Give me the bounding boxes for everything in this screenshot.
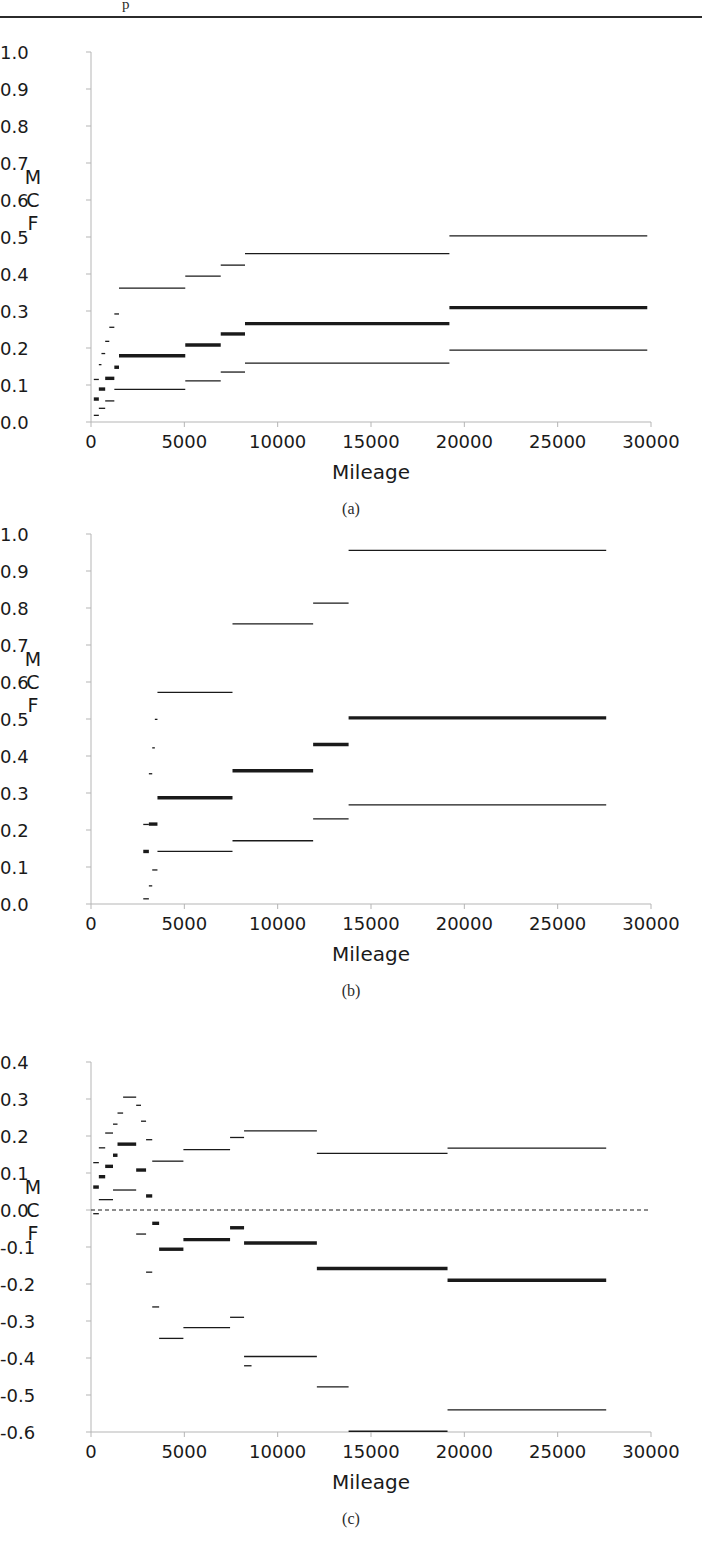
x-tick-label: 10000: [249, 431, 306, 452]
x-axis-title: Mileage: [91, 1470, 651, 1494]
x-tick-label: 15000: [342, 431, 399, 452]
series-mcf-estimate: [143, 718, 606, 852]
y-tick-label: -0.5: [0, 1385, 82, 1406]
y-tick-label: 0.4: [0, 1052, 82, 1073]
figure-panel-a: 0.00.10.20.30.40.50.60.70.80.91.00500010…: [0, 30, 702, 510]
y-tick-label: 0.8: [0, 598, 82, 619]
y-tick-label: 0.3: [0, 301, 82, 322]
y-axis-title-mcf: MCF: [22, 166, 44, 235]
y-tick-label: 0.1: [0, 375, 82, 396]
y-axis-title-letter-2: F: [22, 212, 44, 235]
x-axis-title: Mileage: [91, 460, 651, 484]
x-tick-label: 30000: [622, 431, 679, 452]
x-tick-label: 0: [85, 913, 96, 934]
y-axis-title-letter-0: M: [22, 166, 44, 189]
y-tick-label: 0.3: [0, 783, 82, 804]
x-tick-label: 0: [85, 1441, 96, 1462]
y-axis-title-letter-2: F: [22, 1222, 44, 1245]
y-tick-label: 0.1: [0, 857, 82, 878]
y-tick-label: -0.6: [0, 1422, 82, 1443]
series-mcf-difference-estimate: [93, 1144, 606, 1280]
y-tick-label: 0.4: [0, 264, 82, 285]
y-tick-label: -0.3: [0, 1311, 82, 1332]
y-tick-label: 0.2: [0, 1126, 82, 1147]
x-tick-label: 20000: [436, 431, 493, 452]
x-tick-label: 0: [85, 431, 96, 452]
x-tick-label: 20000: [436, 913, 493, 934]
x-tick-label: 10000: [249, 913, 306, 934]
y-axis-title-letter-0: M: [22, 648, 44, 671]
y-axis-title-letter-0: M: [22, 1176, 44, 1199]
x-tick-label: 30000: [622, 1441, 679, 1462]
y-tick-label: 0.2: [0, 338, 82, 359]
y-axis-title-letter-1: C: [22, 671, 44, 694]
x-tick-label: 25000: [529, 913, 586, 934]
x-axis-title: Mileage: [91, 942, 651, 966]
top-text-fragment: p: [122, 0, 130, 14]
y-tick-label: 0.2: [0, 820, 82, 841]
series-upper-confidence-limit: [143, 550, 606, 824]
y-axis-title-letter-2: F: [22, 694, 44, 717]
series-lower-confidence-limit: [93, 1190, 606, 1431]
y-axis-title-mcf: MCF: [22, 1176, 44, 1245]
x-tick-label: 15000: [342, 913, 399, 934]
y-tick-label: 1.0: [0, 524, 82, 545]
y-axis-title-letter-1: C: [22, 189, 44, 212]
y-tick-label: 0.8: [0, 116, 82, 137]
y-tick-label: 0.3: [0, 1089, 82, 1110]
y-axis-title-letter-1: C: [22, 1199, 44, 1222]
x-tick-label: 5000: [161, 431, 207, 452]
figure-panel-c: -0.6-0.5-0.4-0.3-0.2-0.10.00.10.20.30.40…: [0, 1020, 702, 1546]
figure-panel-b: 0.00.10.20.30.40.50.60.70.80.91.00500010…: [0, 512, 702, 1017]
y-tick-label: 0.9: [0, 561, 82, 582]
y-tick-label: 0.4: [0, 746, 82, 767]
y-tick-label: -0.4: [0, 1348, 82, 1369]
y-axis-title-mcf: MCF: [22, 648, 44, 717]
x-tick-label: 15000: [342, 1441, 399, 1462]
series-upper-confidence-limit: [93, 1097, 606, 1162]
series-lower-confidence-limit: [94, 350, 647, 415]
series-lower-confidence-limit: [143, 805, 606, 899]
y-tick-label: 1.0: [0, 42, 82, 63]
x-tick-label: 25000: [529, 431, 586, 452]
x-tick-label: 30000: [622, 913, 679, 934]
chart-canvas-c: [0, 1020, 702, 1546]
x-tick-label: 10000: [249, 1441, 306, 1462]
x-tick-label: 25000: [529, 1441, 586, 1462]
panel-letter-c: (c): [0, 1510, 702, 1528]
series-mcf-estimate: [94, 308, 647, 399]
x-tick-label: 5000: [161, 1441, 207, 1462]
x-tick-label: 5000: [161, 913, 207, 934]
panel-letter-b: (b): [0, 982, 702, 1000]
y-tick-label: 0.0: [0, 412, 82, 433]
x-tick-label: 20000: [436, 1441, 493, 1462]
y-tick-label: 0.9: [0, 79, 82, 100]
y-tick-label: -0.2: [0, 1274, 82, 1295]
y-tick-label: 0.0: [0, 894, 82, 915]
header-rule: [0, 16, 702, 18]
